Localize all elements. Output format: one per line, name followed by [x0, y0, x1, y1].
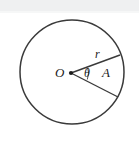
radius-line-lower	[71, 73, 118, 97]
center-point-dot	[69, 71, 73, 75]
circle-diagram	[0, 0, 139, 142]
center-label-o: O	[55, 66, 64, 79]
circle-sector-figure: O θ r A	[0, 0, 139, 142]
radius-label-r: r	[95, 48, 100, 60]
angle-label-theta: θ	[84, 67, 90, 79]
area-label-a: A	[102, 66, 110, 79]
